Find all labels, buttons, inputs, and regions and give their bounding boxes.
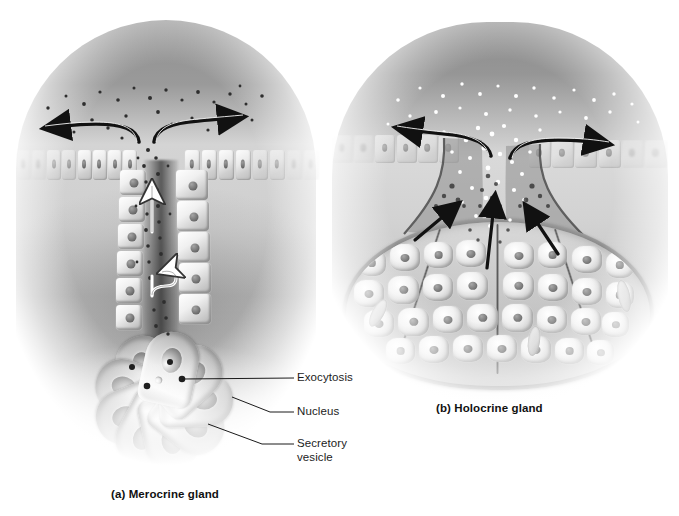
caption-holocrine: (b) Holocrine gland <box>436 402 543 414</box>
callout-secretory-vesicle-line1: Secretory <box>297 437 347 451</box>
callout-nucleus: Nucleus <box>297 405 339 419</box>
figure-canvas: Exocytosis Nucleus Secretory vesicle (a)… <box>0 0 679 516</box>
callout-secretory-vesicle: Secretory vesicle <box>297 437 347 464</box>
merocrine-acinus <box>162 400 163 401</box>
holocrine-epithelium-right <box>528 140 668 168</box>
callout-exocytosis: Exocytosis <box>297 371 353 385</box>
panel-holocrine <box>332 22 668 422</box>
callout-secretory-vesicle-line2: vesicle <box>297 451 347 465</box>
panel-merocrine <box>16 20 316 480</box>
caption-merocrine: (a) Merocrine gland <box>111 488 219 500</box>
holocrine-epithelium-left <box>332 135 460 163</box>
